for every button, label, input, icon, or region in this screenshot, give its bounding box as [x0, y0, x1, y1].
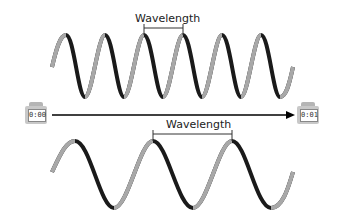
top-wavelength-bracket [144, 24, 183, 35]
bottom-wave [52, 141, 293, 208]
bottom-wavelength-label: Wavelength [166, 118, 231, 131]
start-stopwatch-icon: 0:00 [25, 102, 47, 124]
bottom-wavelength-bracket [153, 130, 232, 141]
top-wavelength-label: Wavelength [135, 12, 200, 25]
end-stopwatch-icon: 0:01 [297, 102, 319, 124]
start-time: 0:00 [28, 109, 46, 122]
wave-diagram [0, 0, 339, 216]
end-time: 0:01 [300, 109, 318, 122]
